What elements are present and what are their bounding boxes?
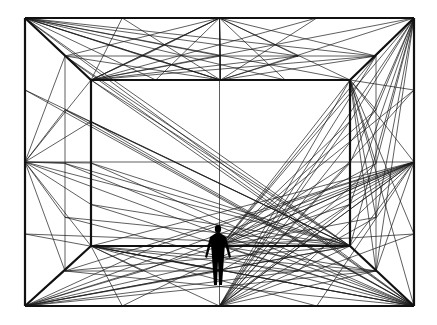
human-figure-icon (205, 225, 231, 285)
room-perspective-drawing (0, 0, 437, 325)
